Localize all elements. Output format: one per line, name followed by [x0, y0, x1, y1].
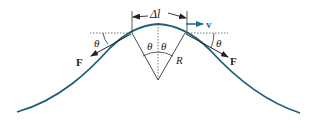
radius-label: R: [175, 54, 183, 66]
theta-inner-left-label: θ: [147, 40, 153, 52]
left-force-label: F: [76, 56, 83, 68]
right-force-arrow: [186, 34, 228, 57]
diagram-canvas: Δl v F F θ θ θ θ R: [0, 0, 318, 120]
right-force-label: F: [230, 55, 237, 67]
left-outer-angle-arc: [103, 33, 108, 44]
delta-l-label: Δl: [149, 7, 161, 21]
wave-pulse-diagram: Δl v F F θ θ θ θ R: [0, 0, 318, 120]
right-outer-angle-arc: [211, 33, 214, 48]
delta-l-right-arrow: [168, 13, 186, 18]
left-radius-line: [132, 33, 158, 80]
theta-outer-right-label: θ: [216, 37, 222, 49]
delta-l-left-arrow: [133, 16, 148, 17]
wave-curve: [17, 24, 300, 113]
velocity-label: v: [206, 18, 212, 30]
theta-outer-left-label: θ: [94, 37, 100, 49]
theta-inner-right-label: θ: [161, 40, 167, 52]
